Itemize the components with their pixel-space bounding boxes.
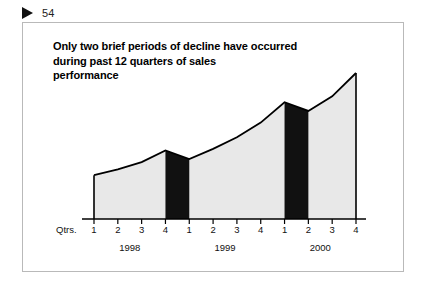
decline-band-2 — [285, 102, 309, 219]
series-group — [94, 73, 356, 219]
play-triangle-icon — [22, 7, 33, 19]
area-chart-svg — [23, 23, 405, 273]
axis-group — [82, 219, 366, 224]
decline-band-1 — [165, 150, 189, 219]
page-header: 54 — [22, 5, 55, 21]
area-fill — [94, 73, 356, 219]
page-number: 54 — [42, 7, 55, 19]
figure-frame: Only two brief periods of decline have o… — [22, 22, 404, 272]
plot-area — [23, 23, 405, 273]
